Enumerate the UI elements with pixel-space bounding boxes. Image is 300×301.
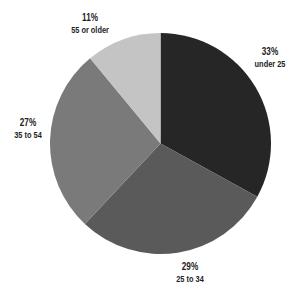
label-pct: 11% xyxy=(61,12,118,24)
label-35-to-54: 27% 35 to 54 xyxy=(5,117,51,141)
label-category: 35 to 54 xyxy=(5,129,51,141)
label-pct: 33% xyxy=(245,46,294,58)
label-category: 25 to 34 xyxy=(165,273,214,285)
label-pct: 29% xyxy=(165,261,214,273)
label-under-25: 33% under 25 xyxy=(245,46,294,70)
label-55-or-older: 11% 55 or older xyxy=(61,12,118,36)
label-pct: 27% xyxy=(5,117,51,129)
label-25-to-34: 29% 25 to 34 xyxy=(165,261,214,285)
label-category: 55 or older xyxy=(61,24,118,36)
label-category: under 25 xyxy=(245,58,294,70)
